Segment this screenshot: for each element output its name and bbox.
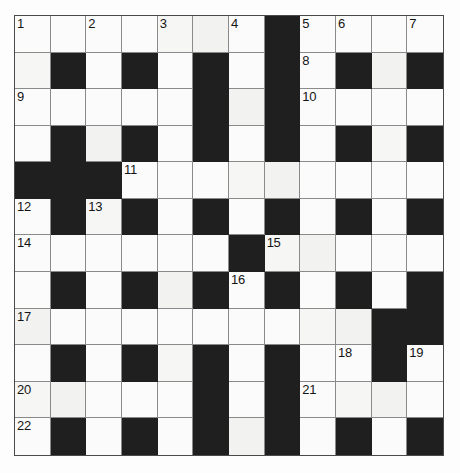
crossword-cell[interactable] — [51, 89, 87, 126]
crossword-cell[interactable]: 16 — [229, 272, 265, 309]
crossword-cell[interactable] — [300, 272, 336, 309]
crossword-cell[interactable]: 13 — [86, 199, 122, 236]
crossword-cell[interactable] — [300, 418, 336, 455]
crossword-cell[interactable] — [15, 272, 51, 309]
crossword-cell[interactable] — [300, 235, 336, 272]
crossword-cell[interactable] — [86, 89, 122, 126]
crossword-cell[interactable]: 6 — [336, 16, 372, 53]
crossword-cell[interactable]: 17 — [15, 309, 51, 346]
crossword-block-cell — [51, 272, 87, 309]
crossword-cell[interactable] — [15, 53, 51, 90]
crossword-cell[interactable] — [300, 126, 336, 163]
crossword-cell[interactable] — [193, 235, 229, 272]
crossword-cell[interactable] — [372, 126, 408, 163]
crossword-cell[interactable] — [300, 162, 336, 199]
crossword-cell[interactable] — [86, 418, 122, 455]
crossword-cell[interactable]: 5 — [300, 16, 336, 53]
crossword-cell[interactable]: 22 — [15, 418, 51, 455]
crossword-cell[interactable] — [229, 53, 265, 90]
crossword-cell[interactable] — [372, 16, 408, 53]
crossword-cell[interactable] — [336, 89, 372, 126]
crossword-cell[interactable] — [158, 89, 194, 126]
crossword-cell[interactable]: 10 — [300, 89, 336, 126]
crossword-cell[interactable] — [407, 235, 443, 272]
crossword-cell[interactable] — [86, 126, 122, 163]
crossword-cell[interactable] — [229, 418, 265, 455]
crossword-cell[interactable] — [193, 162, 229, 199]
crossword-cell[interactable] — [86, 235, 122, 272]
crossword-cell[interactable] — [51, 235, 87, 272]
crossword-cell[interactable] — [86, 309, 122, 346]
crossword-cell[interactable]: 2 — [86, 16, 122, 53]
crossword-cell[interactable]: 3 — [158, 16, 194, 53]
crossword-cell[interactable] — [229, 162, 265, 199]
crossword-cell[interactable] — [158, 272, 194, 309]
crossword-cell[interactable] — [372, 53, 408, 90]
crossword-cell[interactable] — [407, 162, 443, 199]
crossword-cell[interactable] — [229, 89, 265, 126]
crossword-cell[interactable]: 8 — [300, 53, 336, 90]
crossword-cell[interactable] — [229, 345, 265, 382]
crossword-cell[interactable] — [158, 382, 194, 419]
crossword-cell[interactable] — [300, 199, 336, 236]
crossword-cell[interactable]: 4 — [229, 16, 265, 53]
crossword-cell[interactable] — [300, 345, 336, 382]
crossword-cell[interactable] — [372, 418, 408, 455]
crossword-cell[interactable] — [86, 345, 122, 382]
crossword-cell[interactable] — [372, 272, 408, 309]
crossword-cell[interactable] — [122, 16, 158, 53]
crossword-cell[interactable] — [15, 345, 51, 382]
crossword-cell[interactable] — [158, 199, 194, 236]
crossword-cell[interactable] — [336, 162, 372, 199]
crossword-grid[interactable]: 12345678910111213141516171819202122 — [14, 15, 444, 456]
crossword-cell[interactable] — [51, 382, 87, 419]
crossword-cell[interactable] — [86, 272, 122, 309]
crossword-cell[interactable] — [158, 309, 194, 346]
crossword-cell[interactable] — [122, 382, 158, 419]
crossword-cell[interactable] — [265, 309, 301, 346]
crossword-cell[interactable] — [372, 162, 408, 199]
crossword-cell[interactable]: 11 — [122, 162, 158, 199]
crossword-cell[interactable] — [336, 309, 372, 346]
crossword-cell[interactable]: 19 — [407, 345, 443, 382]
crossword-cell[interactable] — [229, 309, 265, 346]
crossword-cell[interactable] — [300, 309, 336, 346]
crossword-cell[interactable] — [407, 89, 443, 126]
crossword-cell[interactable] — [158, 126, 194, 163]
crossword-cell[interactable] — [407, 382, 443, 419]
crossword-cell[interactable] — [158, 418, 194, 455]
crossword-cell[interactable] — [265, 162, 301, 199]
crossword-cell[interactable]: 12 — [15, 199, 51, 236]
crossword-cell[interactable] — [122, 89, 158, 126]
crossword-cell[interactable] — [122, 235, 158, 272]
crossword-cell[interactable] — [372, 382, 408, 419]
crossword-cell[interactable] — [122, 309, 158, 346]
crossword-cell[interactable] — [158, 345, 194, 382]
crossword-cell[interactable] — [372, 199, 408, 236]
crossword-cell[interactable] — [51, 16, 87, 53]
crossword-cell[interactable] — [51, 309, 87, 346]
crossword-cell[interactable] — [158, 162, 194, 199]
crossword-cell[interactable] — [86, 382, 122, 419]
crossword-cell[interactable] — [193, 16, 229, 53]
crossword-cell[interactable] — [158, 235, 194, 272]
crossword-cell[interactable] — [372, 89, 408, 126]
crossword-cell[interactable]: 1 — [15, 16, 51, 53]
crossword-cell[interactable]: 18 — [336, 345, 372, 382]
crossword-cell[interactable] — [229, 126, 265, 163]
crossword-cell[interactable]: 20 — [15, 382, 51, 419]
crossword-cell[interactable] — [372, 235, 408, 272]
crossword-cell[interactable] — [15, 126, 51, 163]
crossword-cell[interactable] — [229, 199, 265, 236]
crossword-cell[interactable] — [193, 309, 229, 346]
crossword-cell[interactable]: 14 — [15, 235, 51, 272]
crossword-cell[interactable] — [158, 53, 194, 90]
crossword-cell[interactable] — [229, 382, 265, 419]
crossword-cell[interactable] — [336, 235, 372, 272]
crossword-cell[interactable]: 7 — [407, 16, 443, 53]
crossword-cell[interactable]: 15 — [265, 235, 301, 272]
crossword-cell[interactable]: 21 — [300, 382, 336, 419]
crossword-cell[interactable] — [336, 382, 372, 419]
crossword-cell[interactable]: 9 — [15, 89, 51, 126]
crossword-cell[interactable] — [86, 53, 122, 90]
